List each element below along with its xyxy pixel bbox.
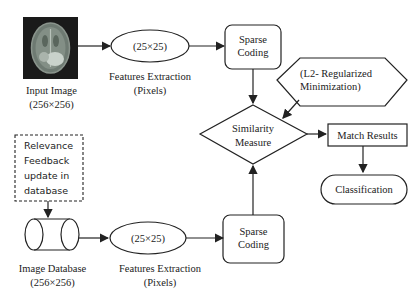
features-extraction-bottom-label: Features Extraction	[110, 262, 210, 275]
similarity-measure-line2: Measure	[218, 136, 288, 149]
sparse-coding-bottom-line2: Coding	[223, 238, 284, 251]
similarity-measure-line1: Similarity	[218, 122, 288, 135]
relevance-feedback-line2: Feedback	[24, 153, 84, 168]
arrow-l2-to-similarity	[283, 100, 299, 118]
relevance-feedback-line3: update in	[24, 168, 84, 183]
sparse-coding-top-line2: Coding	[225, 46, 281, 59]
features-extraction-bottom-size: (25×25)	[110, 232, 186, 245]
relevance-feedback-line4: database	[24, 183, 84, 198]
image-database-cylinder	[25, 219, 79, 250]
sparse-coding-top-line1: Sparse	[225, 33, 281, 46]
features-extraction-top-label: Features Extraction	[100, 70, 200, 83]
l2-minimization-line1: (L2- Regularized	[300, 67, 390, 80]
image-database-label: Image Database	[10, 262, 95, 275]
l2-minimization-line2: Minimization)	[300, 80, 390, 93]
sparse-coding-bottom-line1: Sparse	[223, 225, 284, 238]
features-extraction-bottom-sub: (Pixels)	[110, 276, 210, 289]
features-extraction-top-size: (25×25)	[111, 40, 189, 53]
brain-mri-icon	[23, 17, 78, 79]
features-extraction-top-sub: (Pixels)	[100, 84, 200, 97]
relevance-feedback-line1: Relevance	[24, 138, 84, 153]
image-database-size: (256×256)	[10, 276, 95, 289]
input-image-size: (256×256)	[14, 98, 89, 111]
classification-label: Classification	[321, 183, 407, 196]
input-image-label: Input Image	[14, 84, 89, 97]
match-results-label: Match Results	[328, 129, 407, 142]
input-image-thumbnail	[23, 17, 78, 79]
